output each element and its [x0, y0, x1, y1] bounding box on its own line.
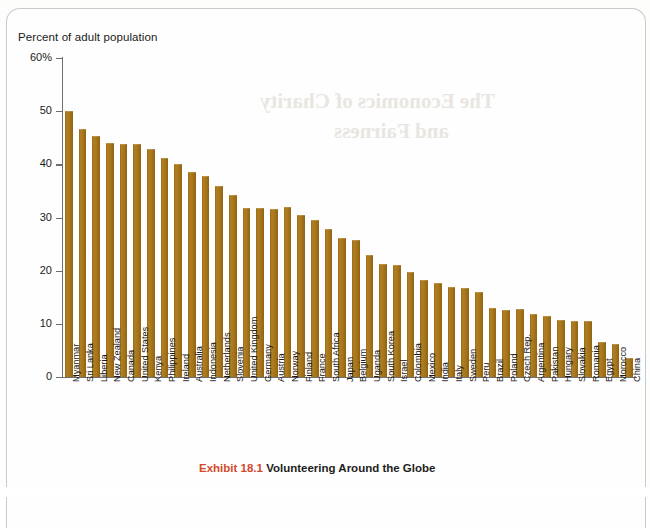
x-tick-label: Italy — [455, 365, 464, 382]
x-tick-label: Japan — [346, 357, 355, 382]
x-tick-label: Argentina — [537, 343, 546, 382]
x-tick-label: Kenya — [154, 356, 163, 382]
x-tick-label: Philippines — [168, 338, 177, 382]
x-tick-label: Colombia — [414, 343, 423, 382]
x-tick-label: Australia — [195, 346, 204, 382]
y-tick-label: 20 — [6, 264, 52, 276]
x-tick-label: Austria — [277, 353, 286, 382]
x-tick-label: Israel — [400, 360, 409, 382]
x-tick-label: Indonesia — [209, 342, 218, 382]
x-tick-label: Mexico — [428, 353, 437, 382]
x-tick-label: Czech Rep. — [523, 334, 532, 382]
x-tick-label: Poland — [510, 353, 519, 382]
x-tick-label: Pakistan — [551, 347, 560, 382]
y-tick-label: 30 — [6, 211, 52, 223]
x-tick-label: Peru — [482, 363, 491, 382]
page-bottom-mask — [0, 487, 650, 497]
y-tick-label: 50 — [6, 104, 52, 116]
y-tick-label: 10 — [6, 317, 52, 329]
x-tick-label: Slovakia — [578, 347, 587, 382]
y-axis-labels: 0102030405060% — [0, 0, 52, 497]
x-tick-label: New Zealand — [113, 328, 122, 382]
y-tick-label: 60% — [6, 51, 52, 63]
y-tick-label: 40 — [6, 157, 52, 169]
x-tick-label: Slovenia — [236, 347, 245, 382]
bar — [65, 111, 73, 377]
x-tick-label: Norway — [291, 351, 300, 382]
x-tick-label: Ireland — [182, 354, 191, 382]
x-tick-label: Liberia — [100, 354, 109, 382]
caption-title: Volunteering Around the Globe — [266, 462, 435, 474]
bar — [79, 129, 87, 377]
x-tick-label: United States — [141, 327, 150, 382]
x-tick-label: India — [441, 362, 450, 382]
bar — [92, 136, 100, 377]
x-tick-label: Romania — [592, 345, 601, 382]
x-tick-label: France — [318, 353, 327, 382]
exhibit-number: Exhibit 18.1 — [199, 462, 263, 474]
x-tick-label: Brazil — [496, 359, 505, 382]
x-tick-label: China — [633, 358, 642, 382]
x-tick-label: Sri Lanka — [86, 343, 95, 382]
x-tick-label: Uganda — [373, 350, 382, 382]
figure-caption: Exhibit 18.1 Volunteering Around the Glo… — [199, 462, 435, 474]
x-tick-label: Morocco — [619, 347, 628, 382]
x-tick-label: Hungary — [564, 347, 573, 382]
x-tick-label: Sweden — [469, 349, 478, 382]
x-tick-label: Belgium — [359, 349, 368, 382]
x-tick-label: United Kingdom — [250, 317, 259, 382]
x-tick-label: Finland — [305, 352, 314, 382]
x-tick-label: South Korea — [387, 331, 396, 382]
y-tick-label: 0 — [6, 370, 52, 382]
x-tick-label: Germany — [264, 344, 273, 382]
x-tick-label: Netherlands — [223, 332, 232, 382]
x-tick-label: Myanmar — [72, 344, 81, 382]
x-tick-label: South Africa — [332, 332, 341, 382]
x-tick-label: Canada — [127, 350, 136, 382]
x-tick-label: Egypt — [605, 359, 614, 383]
